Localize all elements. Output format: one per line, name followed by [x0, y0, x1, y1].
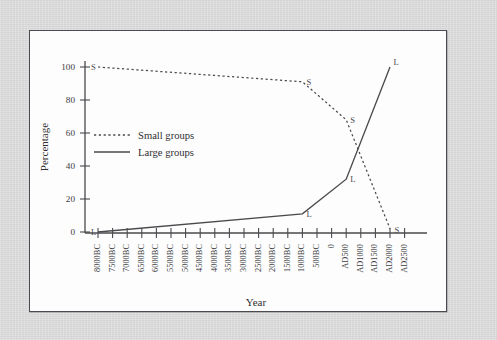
x-tick-label: 0: [327, 244, 336, 248]
x-tick-label: 1500BC: [283, 244, 292, 272]
y-tick-label: 20: [66, 194, 76, 204]
point-marker-s: S: [395, 225, 400, 235]
y-tick-label: 80: [66, 95, 76, 105]
x-tick-label: 8000BC: [93, 244, 102, 272]
x-tick-label: 2500BC: [254, 244, 263, 272]
x-tick-label: 6500BC: [137, 244, 146, 272]
y-axis-title: Percentage: [38, 123, 50, 171]
x-tick-label: 4500BC: [195, 244, 204, 272]
x-tick-label: 6000BC: [151, 244, 160, 272]
point-marker-l: L: [306, 209, 311, 219]
x-axis-title: Year: [246, 296, 267, 308]
x-tick-label: 2000BC: [268, 244, 277, 272]
point-marker-l: L: [394, 57, 399, 67]
x-tick-label: 7500BC: [108, 244, 117, 272]
point-marker-s: S: [306, 77, 311, 87]
x-tick-label: AD1500: [370, 244, 379, 273]
legend: Small groups Large groups: [94, 130, 194, 158]
x-tick-label: 5500BC: [166, 244, 175, 272]
x-tick-label: 3500BC: [224, 244, 233, 272]
x-tick-label: 500BC: [312, 244, 321, 268]
line-chart: 100 80 60 40 20 0 8000BC7500BC7000BC6500…: [30, 31, 446, 311]
x-tick-label: 3000BC: [239, 244, 248, 272]
point-marker-l: L: [91, 227, 96, 237]
x-tick-label: AD500: [341, 244, 350, 269]
x-tick-label: AD2500: [400, 244, 409, 273]
figure-panel: 100 80 60 40 20 0 8000BC7500BC7000BC6500…: [29, 30, 447, 312]
y-tick-label: 40: [66, 161, 76, 171]
point-marker-l: L: [350, 174, 355, 184]
point-marker-s: S: [350, 115, 355, 125]
legend-label-small-groups: Small groups: [138, 130, 194, 141]
x-tick-label: AD1000: [356, 244, 365, 273]
x-tick-label: AD2000: [385, 244, 394, 273]
y-tick-label: 0: [70, 227, 75, 237]
x-tick-label: 5000BC: [181, 244, 190, 272]
x-axis-tick-labels: 8000BC7500BC7000BC6500BC6000BC5500BC5000…: [93, 244, 409, 273]
y-tick-label: 60: [66, 128, 76, 138]
legend-label-large-groups: Large groups: [138, 147, 194, 158]
point-marker-s: S: [91, 62, 96, 72]
y-tick-label: 100: [61, 62, 75, 72]
x-tick-label: 1000BC: [297, 244, 306, 272]
y-axis-tick-labels: 100 80 60 40 20 0: [61, 62, 75, 237]
x-tick-label: 4000BC: [210, 244, 219, 272]
screenshot-root: 100 80 60 40 20 0 8000BC7500BC7000BC6500…: [0, 0, 497, 340]
x-tick-label: 7000BC: [122, 244, 131, 272]
